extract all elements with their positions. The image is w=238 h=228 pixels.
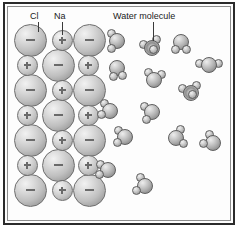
sodium-ion — [52, 80, 73, 101]
oxygen-atom — [146, 72, 162, 88]
oxygen-atom — [201, 57, 217, 73]
label-na: Na — [54, 11, 66, 21]
plus-sign-icon — [85, 62, 92, 69]
minus-sign-icon — [54, 61, 63, 70]
minus-sign-icon — [26, 36, 35, 45]
sodium-ion — [78, 55, 99, 76]
leader-line-cl — [38, 22, 39, 32]
leader-line-water — [153, 22, 154, 41]
chloride-ion — [73, 24, 106, 57]
hydrogen-atom — [179, 139, 188, 148]
minus-sign-icon — [26, 136, 35, 145]
minus-sign-icon — [85, 186, 94, 195]
minus-sign-icon — [54, 161, 63, 170]
leader-line-na — [62, 22, 63, 35]
hydrogen-atom — [107, 44, 116, 53]
label-water: Water molecule — [113, 11, 175, 21]
sodium-ion — [17, 105, 38, 126]
sodium-ion — [52, 130, 73, 151]
hydrogen-atom — [109, 72, 118, 81]
minus-sign-icon — [54, 111, 63, 120]
sodium-ion — [78, 105, 99, 126]
plus-sign-icon — [85, 112, 92, 119]
minus-sign-icon — [26, 86, 35, 95]
chloride-ion — [14, 124, 47, 157]
plus-sign-icon — [24, 162, 31, 169]
sodium-ion — [52, 180, 73, 201]
chloride-ion — [73, 124, 106, 157]
sodium-ion — [17, 155, 38, 176]
chloride-ion — [42, 149, 75, 182]
plus-sign-icon — [24, 62, 31, 69]
plus-sign-icon — [59, 137, 66, 144]
chloride-ion — [14, 174, 47, 207]
minus-sign-icon — [85, 86, 94, 95]
minus-sign-icon — [26, 186, 35, 195]
chloride-ion — [14, 24, 47, 57]
chloride-ion — [14, 74, 47, 107]
hydrogen-atom — [188, 90, 197, 99]
plus-sign-icon — [85, 162, 92, 169]
hydrogen-atom — [182, 45, 191, 54]
minus-sign-icon — [85, 136, 94, 145]
hydrogen-atom — [113, 138, 122, 147]
plus-sign-icon — [59, 37, 66, 44]
chloride-ion — [42, 99, 75, 132]
plus-sign-icon — [24, 112, 31, 119]
plus-sign-icon — [59, 187, 66, 194]
minus-sign-icon — [85, 36, 94, 45]
hydrogen-atom — [97, 110, 106, 119]
figure-container: ClNaWater molecule — [0, 0, 238, 228]
plus-sign-icon — [59, 87, 66, 94]
label-cl: Cl — [30, 11, 39, 21]
sodium-ion — [17, 55, 38, 76]
chloride-ion — [42, 49, 75, 82]
hydrogen-atom — [149, 45, 158, 54]
